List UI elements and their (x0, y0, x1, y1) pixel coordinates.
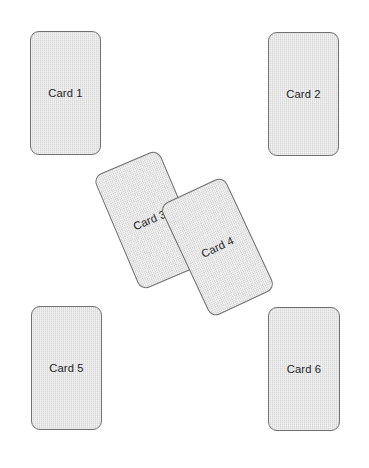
card-2[interactable]: Card 2 (268, 32, 339, 156)
card-5-label: Card 5 (49, 362, 83, 374)
card-4-label: Card 4 (199, 234, 235, 259)
card-1-label: Card 1 (48, 87, 82, 99)
card-2-label: Card 2 (286, 88, 320, 100)
card-layout-canvas: Card 1 Card 2 Card 3 Card 4 Card 5 Card … (0, 0, 369, 468)
card-6-label: Card 6 (287, 363, 321, 375)
card-5[interactable]: Card 5 (31, 306, 102, 430)
card-1[interactable]: Card 1 (30, 31, 101, 155)
card-6[interactable]: Card 6 (268, 307, 340, 431)
